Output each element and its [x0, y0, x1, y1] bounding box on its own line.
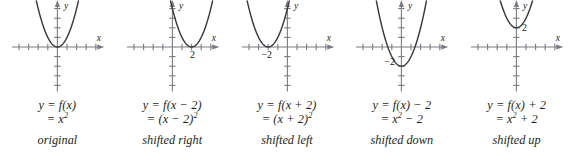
coordinate-plane: xy2: [115, 0, 230, 92]
equation-line-2: = (x + 2)2: [230, 112, 345, 127]
panel-description: shifted left: [230, 133, 345, 148]
equation-line-2: = x2 + 2: [459, 112, 574, 127]
graph-shifted-right: xy2: [115, 0, 230, 92]
equation-line-1: y = f(x − 2): [115, 98, 230, 113]
panel-shifted-down: xy−2y = f(x) − 2= x2 − 2shifted down: [344, 0, 459, 157]
panel-description: shifted down: [344, 133, 459, 148]
graph-original: xy: [0, 0, 115, 92]
equation-base: = (x + 2): [262, 112, 309, 126]
coordinate-plane: xy−2: [230, 0, 345, 92]
equation-line-2: = x2 − 2: [344, 112, 459, 127]
y-axis-label: y: [178, 1, 184, 11]
panel-original: xyy = f(x)= x2original: [0, 0, 115, 157]
equation-base: = x: [381, 112, 398, 126]
y-axis-arrow: [399, 0, 404, 7]
panel-shifted-left: xy−2y = f(x + 2)= (x + 2)2shifted left: [230, 0, 345, 157]
x-axis-arrow: [442, 44, 449, 49]
equation-exponent: 2: [64, 111, 68, 120]
y-axis-label: y: [522, 1, 528, 11]
vertex-value-label: −2: [385, 56, 396, 67]
panel-description: original: [0, 133, 115, 148]
equation-line-2: = (x − 2)2: [115, 112, 230, 127]
equation-exponent: 2: [308, 111, 312, 120]
x-axis-label: x: [96, 33, 102, 43]
y-axis-label: y: [63, 1, 69, 11]
panel-shifted-up: xy2y = f(x) + 2= x2 + 2shifted up: [459, 0, 574, 157]
y-axis-arrow: [55, 0, 60, 7]
x-axis-label: x: [555, 33, 561, 43]
equation-exponent: 2: [193, 111, 197, 120]
coordinate-plane: xy2: [459, 0, 574, 92]
y-axis-label: y: [292, 1, 298, 11]
x-axis-label: x: [440, 33, 446, 43]
coordinate-plane: xy: [0, 0, 115, 92]
vertex-value-label: 2: [522, 22, 527, 33]
x-axis-arrow: [327, 44, 334, 49]
equation-base: = x: [47, 112, 64, 126]
equation-line-2: = x2: [0, 112, 115, 127]
coordinate-plane: xy−2: [344, 0, 459, 92]
panel-shifted-right: xy2y = f(x − 2)= (x − 2)2shifted right: [115, 0, 230, 157]
parabola-curve: [247, 1, 289, 47]
equation-base: = (x − 2): [147, 112, 194, 126]
vertex-value-label: 2: [190, 49, 195, 60]
graph-shifted-down: xy−2: [344, 0, 459, 92]
panel-description: shifted up: [459, 133, 574, 148]
x-axis-arrow: [97, 44, 104, 49]
panel-description: shifted right: [115, 133, 230, 148]
x-axis-label: x: [325, 33, 331, 43]
x-axis-arrow: [212, 44, 219, 49]
x-axis-arrow: [556, 44, 563, 49]
y-axis-label: y: [407, 1, 413, 11]
vertex-value-label: −2: [261, 49, 272, 60]
x-axis-label: x: [210, 33, 216, 43]
equation-tail: − 2: [402, 112, 423, 126]
equation-line-1: y = f(x): [0, 98, 115, 113]
equation-tail: + 2: [517, 112, 538, 126]
graph-shifted-up: xy2: [459, 0, 574, 92]
equation-base: = x: [495, 112, 512, 126]
parabola-transformations-figure: xyy = f(x)= x2originalxy2y = f(x − 2)= (…: [0, 0, 574, 157]
graph-shifted-left: xy−2: [230, 0, 345, 92]
equation-line-1: y = f(x + 2): [230, 98, 345, 113]
parabola-curve: [170, 1, 212, 47]
y-axis-arrow: [514, 0, 519, 7]
